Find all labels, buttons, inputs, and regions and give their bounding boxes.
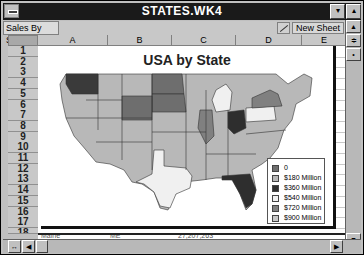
- scroll-thumb[interactable]: •: [346, 48, 361, 61]
- legend-swatch: [272, 185, 279, 192]
- row-header-17[interactable]: 17: [8, 217, 38, 228]
- legend-swatch: [272, 215, 279, 222]
- column-header-d[interactable]: D: [236, 35, 302, 46]
- tab-scroll-icon[interactable]: [277, 22, 290, 34]
- legend-label: 0: [284, 164, 288, 171]
- legend-item: $720 Million: [272, 203, 321, 212]
- state-south-dakota: [152, 94, 186, 112]
- horizontal-scrollbar[interactable]: ↔ ◀ ▶: [3, 239, 361, 253]
- legend-label: $720 Million: [284, 204, 321, 211]
- spreadsheet-window: STATES.WK4 ▾ ▴ Sales By State New Sheet …: [0, 0, 364, 255]
- chart-title: USA by State: [41, 52, 333, 68]
- window-title: STATES.WK4: [3, 4, 361, 18]
- vertical-scrollbar[interactable]: ▲ ≑ • ▼: [345, 20, 361, 248]
- legend-label: $360 Million: [284, 184, 321, 191]
- column-header-a[interactable]: A: [38, 35, 108, 46]
- column-header-b[interactable]: B: [108, 35, 172, 46]
- scroll-left-button[interactable]: ◀: [22, 240, 35, 253]
- scroll-up-button[interactable]: ▲: [346, 20, 361, 33]
- state-florida: [222, 174, 256, 208]
- scroll-right-button[interactable]: ▶: [330, 240, 343, 253]
- legend-swatch: [272, 165, 279, 172]
- minimize-button[interactable]: ▾: [330, 4, 345, 19]
- legend-label: $180 Million: [284, 174, 321, 181]
- chart-legend: 0$180 Million$360 Million$540 Million$72…: [267, 158, 325, 224]
- maximize-button[interactable]: ▴: [346, 4, 361, 19]
- column-header-c[interactable]: C: [172, 35, 236, 46]
- legend-label: $540 Million: [284, 194, 321, 201]
- legend-item: $180 Million: [272, 173, 321, 182]
- new-sheet-button[interactable]: New Sheet: [292, 22, 344, 34]
- title-bar: STATES.WK4 ▾ ▴: [3, 3, 361, 20]
- row-header-18[interactable]: 18: [8, 228, 38, 234]
- legend-swatch: [272, 175, 279, 182]
- legend-swatch: [272, 205, 279, 212]
- state-wyoming: [122, 96, 152, 120]
- split-handle[interactable]: ≑: [346, 34, 361, 47]
- tab-sales-by-state[interactable]: Sales By State: [3, 21, 59, 35]
- legend-item: $360 Million: [272, 183, 321, 192]
- state-north-dakota: [152, 74, 184, 94]
- state-washington: [66, 74, 98, 94]
- legend-label: $900 Million: [284, 214, 321, 221]
- legend-item: 0: [272, 163, 288, 172]
- state-pennsylvania: [246, 106, 276, 122]
- horizontal-scroll-thumb[interactable]: [36, 240, 48, 253]
- legend-item: $540 Million: [272, 193, 321, 202]
- column-header-e[interactable]: E: [302, 35, 347, 46]
- legend-item: $900 Million: [272, 213, 321, 222]
- split-handle-horizontal[interactable]: ↔: [8, 240, 21, 253]
- legend-swatch: [272, 195, 279, 202]
- map-chart[interactable]: USA by State: [41, 46, 336, 229]
